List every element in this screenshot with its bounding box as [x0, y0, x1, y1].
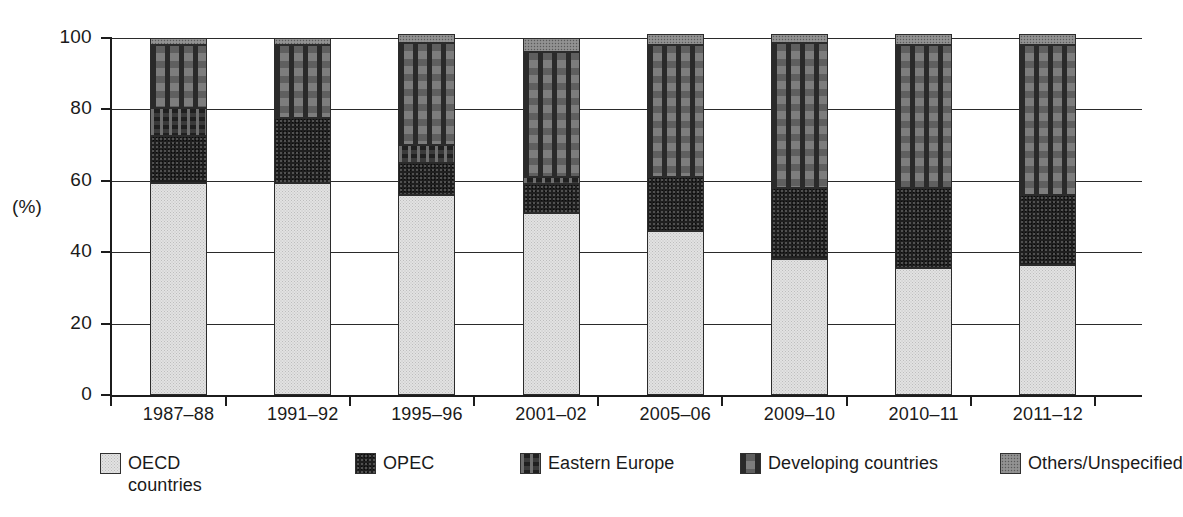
x-tick-label: 2010–11 [854, 404, 994, 425]
bar-stack[interactable] [1019, 38, 1076, 395]
bar-segment[interactable] [398, 34, 455, 43]
bar-segment[interactable] [1019, 45, 1076, 195]
legend-label: Developing countries [768, 452, 938, 474]
bar-segment[interactable] [150, 183, 207, 395]
bar-stack[interactable] [771, 38, 828, 395]
bar-segment[interactable] [1019, 34, 1076, 45]
legend-item[interactable]: Eastern Europe [520, 452, 674, 474]
bar-segment[interactable] [771, 259, 828, 395]
bar-segment[interactable] [895, 268, 952, 395]
bar-segment[interactable] [150, 136, 207, 182]
bar-segment[interactable] [647, 177, 704, 231]
bar-segment[interactable] [150, 108, 207, 137]
bar-segment[interactable] [150, 38, 207, 45]
bar-segment[interactable] [523, 213, 580, 395]
bar-stack[interactable] [274, 38, 331, 395]
legend-label: OECD countries [128, 452, 202, 496]
x-tick-label: 2001–02 [481, 404, 621, 425]
bar-stack[interactable] [398, 38, 455, 395]
legend-swatch [100, 453, 121, 474]
bar-segment[interactable] [771, 43, 828, 188]
bar-segment[interactable] [895, 188, 952, 268]
bar-segment[interactable] [1019, 195, 1076, 265]
bar-stack[interactable] [523, 38, 580, 395]
legend-item[interactable]: OPEC [355, 452, 434, 474]
bar-segment[interactable] [523, 184, 580, 213]
x-tick-label: 2011–12 [978, 404, 1118, 425]
bar-segment[interactable] [398, 195, 455, 395]
legend-item[interactable]: Others/Unspecified [1000, 452, 1183, 474]
bar-stack[interactable] [895, 38, 952, 395]
bar-segment[interactable] [274, 45, 331, 118]
legend-label: Eastern Europe [548, 452, 674, 474]
chart-legend: OECD countriesOPECEastern EuropeDevelopi… [0, 452, 1155, 512]
bar-segment[interactable] [274, 183, 331, 395]
bar-segment[interactable] [274, 118, 331, 182]
bar-segment[interactable] [647, 231, 704, 395]
bar-segment[interactable] [523, 38, 580, 52]
bar-segment[interactable] [274, 38, 331, 45]
bar-segment[interactable] [647, 34, 704, 45]
bar-segment[interactable] [647, 45, 704, 177]
bar-segment[interactable] [398, 145, 455, 163]
legend-swatch [355, 453, 376, 474]
bar-segment[interactable] [398, 43, 455, 145]
legend-label: OPEC [383, 452, 434, 474]
x-tick-mark [110, 395, 112, 406]
legend-swatch [1000, 453, 1021, 474]
legend-label: Others/Unspecified [1028, 452, 1183, 474]
bar-stack[interactable] [647, 38, 704, 395]
legend-swatch [520, 453, 541, 474]
x-tick-label: 2009–10 [730, 404, 870, 425]
bar-segment[interactable] [895, 34, 952, 45]
bar-segment[interactable] [771, 188, 828, 259]
bar-stack[interactable] [150, 38, 207, 395]
x-tick-label: 1991–92 [233, 404, 373, 425]
legend-item[interactable]: OECD countries [100, 452, 202, 496]
legend-item[interactable]: Developing countries [740, 452, 938, 474]
bar-segment[interactable] [895, 45, 952, 188]
x-tick-label: 2005–06 [605, 404, 745, 425]
bar-segment[interactable] [523, 52, 580, 177]
bar-segment[interactable] [523, 177, 580, 184]
bar-segment[interactable] [771, 34, 828, 43]
x-tick-label: 1995–96 [357, 404, 497, 425]
x-tick-label: 1987–88 [109, 404, 249, 425]
bar-segment[interactable] [398, 163, 455, 195]
bar-segment[interactable] [1019, 265, 1076, 395]
bar-segment[interactable] [150, 45, 207, 107]
legend-swatch [740, 453, 761, 474]
